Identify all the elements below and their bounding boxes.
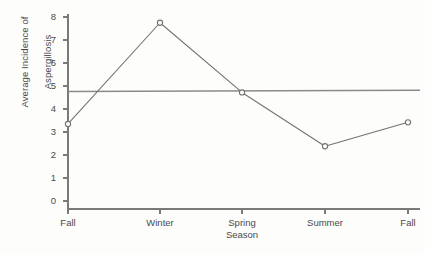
data-series-line bbox=[68, 23, 408, 147]
x-tick-label: Fall bbox=[400, 217, 415, 228]
x-tick-label: Winter bbox=[146, 217, 173, 228]
data-point-marker bbox=[405, 120, 410, 125]
x-axis-title: Season bbox=[226, 229, 258, 240]
x-tick-marks bbox=[68, 209, 408, 214]
x-tick-label: Spring bbox=[228, 217, 255, 228]
data-point-markers bbox=[65, 20, 410, 149]
y-tick-label: 6 bbox=[40, 58, 56, 68]
plot-area: 012345678 FallWinterSpringSummerFall Sea… bbox=[0, 0, 425, 254]
data-point-marker bbox=[322, 144, 327, 149]
chart-svg bbox=[0, 0, 425, 254]
y-tick-label: 5 bbox=[40, 81, 56, 91]
y-tick-label: 3 bbox=[40, 127, 56, 137]
data-point-marker bbox=[239, 90, 244, 95]
chart-container: Average Incidence of Aspergillosis 01234… bbox=[0, 0, 425, 254]
y-tick-label: 2 bbox=[40, 150, 56, 160]
y-tick-label: 4 bbox=[40, 104, 56, 114]
y-tick-label: 8 bbox=[40, 12, 56, 22]
data-point-marker bbox=[157, 20, 162, 25]
y-tick-marks bbox=[63, 17, 68, 201]
x-tick-label: Fall bbox=[60, 217, 75, 228]
x-tick-label: Summer bbox=[307, 217, 343, 228]
y-tick-label: 7 bbox=[40, 35, 56, 45]
data-point-marker bbox=[65, 121, 70, 126]
y-tick-label: 0 bbox=[40, 196, 56, 206]
y-tick-label: 1 bbox=[40, 173, 56, 183]
